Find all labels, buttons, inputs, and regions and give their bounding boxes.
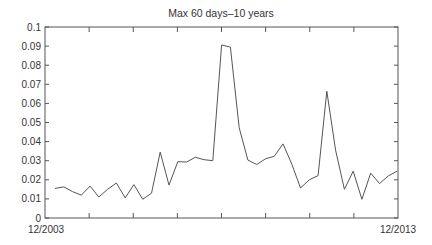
y-tick-label: 0.08	[22, 60, 42, 71]
y-tick-label: 0.09	[22, 41, 42, 52]
y-tick-label: 0	[35, 213, 41, 224]
y-tick-label: 0.03	[22, 155, 42, 166]
y-tick-label: 0.01	[22, 193, 42, 204]
y-tick-label: 0.05	[22, 117, 42, 128]
data-line	[55, 45, 397, 199]
plot-area: 00.010.020.030.040.050.060.070.080.090.1	[22, 22, 398, 224]
x-end-label: 12/2013	[380, 224, 417, 235]
plot-frame	[45, 27, 398, 218]
y-tick-label: 0.06	[22, 98, 42, 109]
y-tick-label: 0.04	[22, 136, 42, 147]
line-chart: Max 60 days–10 years 00.010.020.030.040.…	[0, 0, 432, 245]
y-axis: 00.010.020.030.040.050.060.070.080.090.1	[22, 22, 398, 224]
x-start-label: 12/2003	[28, 224, 65, 235]
chart-title: Max 60 days–10 years	[168, 7, 274, 19]
y-tick-label: 0.02	[22, 174, 42, 185]
x-axis-ticks	[89, 27, 354, 218]
y-tick-label: 0.07	[22, 79, 42, 90]
y-tick-label: 0.1	[27, 22, 41, 33]
